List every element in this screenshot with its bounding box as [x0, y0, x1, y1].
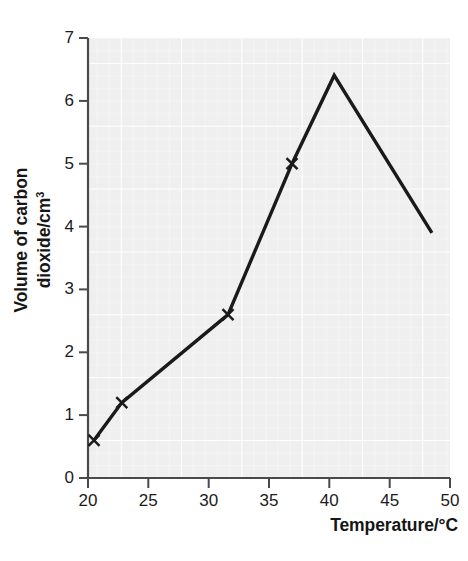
x-tick-label: 50 — [430, 491, 468, 511]
x-tick-label: 20 — [68, 491, 108, 511]
x-tick-label: 45 — [370, 491, 410, 511]
chart-figure: Volume of carbon dioxide/cm3 — [0, 0, 468, 561]
x-tick-label: 30 — [189, 491, 229, 511]
y-tick-label: 3 — [44, 279, 74, 299]
y-tick-label: 0 — [44, 468, 74, 488]
x-tick-label: 35 — [249, 491, 289, 511]
y-tick-label: 5 — [44, 154, 74, 174]
y-tick-label: 7 — [44, 28, 74, 48]
y-tick-label: 1 — [44, 405, 74, 425]
x-tick-label: 25 — [128, 491, 168, 511]
y-axis-ticks — [79, 38, 88, 478]
plot-background — [88, 38, 450, 478]
x-axis-ticks — [88, 478, 450, 488]
y-tick-label: 6 — [44, 91, 74, 111]
y-tick-label: 2 — [44, 342, 74, 362]
x-axis-title: Temperature/°C — [0, 515, 458, 536]
x-tick-label: 40 — [309, 491, 349, 511]
y-tick-label: 4 — [44, 217, 74, 237]
